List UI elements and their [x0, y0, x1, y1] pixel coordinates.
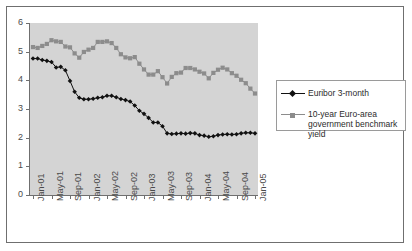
data-point — [123, 98, 128, 103]
x-tick-label: Jan-05 — [259, 173, 268, 201]
data-point — [160, 75, 164, 79]
x-tick-mark — [126, 196, 127, 199]
legend-label-euribor: Euribor 3-month — [305, 88, 369, 98]
data-point — [63, 44, 67, 48]
data-point — [68, 45, 72, 49]
data-point — [40, 44, 44, 48]
data-point — [169, 132, 174, 137]
data-point — [86, 48, 90, 52]
data-point — [49, 38, 53, 42]
data-point — [119, 97, 124, 102]
legend-label-yield-line1: 10-year Euro-area — [308, 109, 377, 119]
data-point — [244, 81, 248, 85]
data-point — [183, 131, 188, 136]
y-tick-mark — [26, 52, 29, 53]
data-point — [35, 56, 40, 61]
y-tick-mark — [26, 195, 29, 196]
y-tick-label: 6 — [0, 18, 23, 27]
data-point — [95, 96, 100, 101]
data-point — [77, 56, 81, 60]
data-point — [234, 132, 239, 137]
y-tick-label: 5 — [0, 47, 23, 56]
x-tick-mark — [144, 196, 145, 199]
data-point — [184, 66, 188, 70]
data-point — [100, 95, 105, 100]
x-tick-label: May-04 — [222, 171, 231, 201]
data-point — [248, 130, 253, 135]
data-point — [253, 91, 257, 95]
y-tick-label: 3 — [0, 104, 23, 113]
x-tick-mark — [33, 196, 34, 199]
legend-label-yield-line2: government benchmark yield — [308, 119, 397, 139]
data-point — [54, 39, 58, 43]
chart-legend: Euribor 3-month 10-year Euro-areagovernm… — [276, 80, 406, 131]
data-point — [211, 71, 215, 75]
x-tick-label: Sep-04 — [241, 172, 250, 201]
data-point — [193, 67, 197, 71]
data-point — [86, 97, 91, 102]
data-point — [36, 46, 40, 50]
data-point — [82, 50, 86, 54]
data-point — [91, 46, 95, 50]
x-tick-mark — [218, 196, 219, 199]
data-point — [45, 59, 50, 64]
data-point — [105, 39, 109, 43]
y-tick-label: 1 — [0, 161, 23, 170]
data-point — [248, 87, 252, 91]
data-point — [31, 56, 36, 61]
data-point — [197, 133, 202, 138]
data-point — [142, 67, 146, 71]
data-point — [110, 41, 114, 45]
data-point — [216, 68, 220, 72]
x-tick-label: Sep-01 — [74, 172, 83, 201]
data-point — [243, 130, 248, 135]
data-point — [239, 78, 243, 82]
x-tick-label: Jan-04 — [204, 173, 213, 201]
x-tick-mark — [70, 196, 71, 199]
x-tick-label: Jan-02 — [93, 173, 102, 201]
y-tick-mark — [26, 166, 29, 167]
x-tick-mark — [107, 196, 108, 199]
x-tick-mark — [255, 196, 256, 199]
data-point — [68, 79, 73, 84]
data-point — [225, 67, 229, 71]
x-tick-label: May-02 — [111, 171, 120, 201]
x-tick-mark — [89, 196, 90, 199]
y-axis-line — [29, 23, 30, 196]
legend-item-yield: 10-year Euro-areagovernment benchmark yi… — [281, 109, 405, 139]
data-point — [91, 96, 96, 101]
data-point — [114, 95, 119, 100]
data-point — [230, 132, 235, 137]
x-tick-mark — [52, 196, 53, 199]
data-point — [119, 52, 123, 56]
data-point — [216, 133, 221, 138]
x-tick-label: Sep-02 — [130, 172, 139, 201]
y-tick-label: 2 — [0, 133, 23, 142]
data-point — [188, 131, 193, 136]
data-point — [207, 76, 211, 80]
data-point — [96, 40, 100, 44]
y-tick-mark — [26, 80, 29, 81]
x-tick-label: May-01 — [56, 171, 65, 201]
data-point — [123, 55, 127, 59]
data-point — [239, 131, 244, 136]
data-point — [230, 71, 234, 75]
data-point — [114, 46, 118, 50]
legend-item-euribor: Euribor 3-month — [281, 88, 369, 99]
x-tick-label: May-03 — [167, 171, 176, 201]
x-tick-label: Jan-01 — [37, 173, 46, 201]
x-tick-mark — [181, 196, 182, 199]
data-point — [253, 131, 258, 136]
data-point — [45, 42, 49, 46]
x-tick-mark — [237, 196, 238, 199]
data-point — [151, 73, 155, 77]
data-point — [206, 135, 211, 140]
data-point — [128, 56, 132, 60]
data-point — [40, 58, 45, 63]
square-marker-icon — [281, 110, 305, 120]
data-point — [202, 71, 206, 75]
y-tick-mark — [26, 138, 29, 139]
x-tick-mark — [163, 196, 164, 199]
x-tick-mark — [200, 196, 201, 199]
data-point — [82, 97, 87, 102]
